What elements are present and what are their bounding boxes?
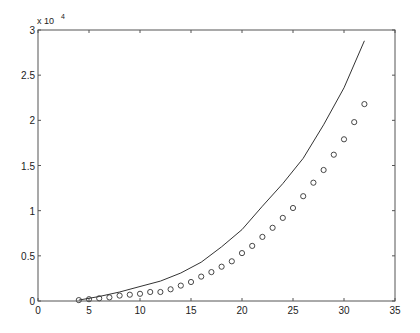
x-tick-label: 25 <box>287 305 299 316</box>
y-multiplier-exponent: 4 <box>61 13 65 20</box>
x-tick-label: 30 <box>338 305 350 316</box>
plot-background <box>38 30 395 301</box>
x-tick-label: 0 <box>35 305 41 316</box>
x-axis-tick-labels: 05101520253035 <box>35 305 401 316</box>
x-tick-label: 20 <box>236 305 248 316</box>
chart: 05101520253035 00.511.522.53 x 10 4 <box>0 0 420 333</box>
y-tick-label: 2.5 <box>21 70 35 81</box>
y-tick-label: 1.5 <box>21 161 35 172</box>
y-multiplier-label: x 10 <box>37 16 54 26</box>
y-axis-tick-labels: 00.511.522.53 <box>21 25 35 307</box>
x-tick-label: 10 <box>134 305 146 316</box>
y-tick-label: 2 <box>29 115 35 126</box>
x-tick-label: 15 <box>185 305 197 316</box>
x-tick-label: 35 <box>389 305 401 316</box>
y-tick-label: 0.5 <box>21 251 35 262</box>
y-tick-label: 1 <box>29 206 35 217</box>
x-tick-label: 5 <box>86 305 92 316</box>
y-tick-label: 0 <box>29 296 35 307</box>
y-tick-label: 3 <box>29 25 35 36</box>
